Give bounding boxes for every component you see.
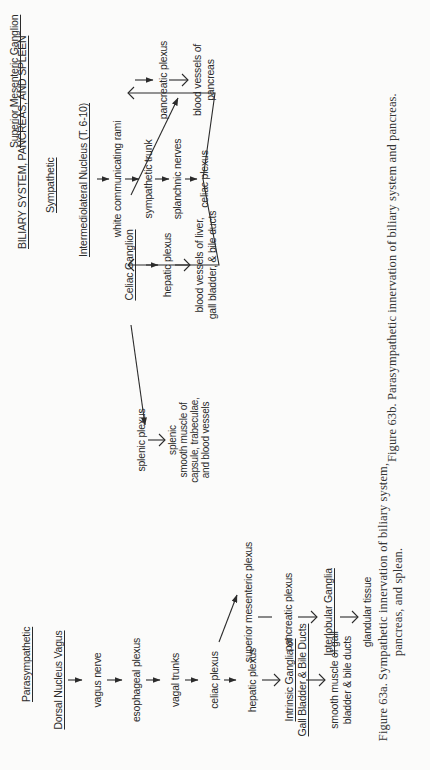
caption-figure-63a-line2: pancreas, and splean.	[391, 452, 406, 752]
node-celiac-plexus-para: celiac plexus	[208, 640, 220, 720]
node-glandular-tissue: glandular tissue	[361, 562, 373, 662]
node-vagus-nerve: vagus nerve	[91, 640, 103, 720]
node-pancreas-vessels-line1: blood vessels of	[191, 30, 203, 130]
node-superior-mesenteric-ganglion: Superior Mesenteric Ganglion	[8, 15, 20, 148]
heading-sympathetic: Sympathetic	[44, 157, 56, 213]
node-splenic-plexus: splenic plexus	[135, 395, 147, 485]
node-pancreatic-plexus-symp: pancreatic plexus	[157, 30, 169, 130]
node-celiac-ganglion: Celiac Ganglion	[123, 215, 135, 315]
node-intrinsic-ganglia-line2: Gall Bladder & Bile Ducts	[296, 620, 308, 740]
node-interlobular-ganglia: Interlobular Ganglia	[322, 552, 334, 672]
rotated-book-page: Parasympathetic Dorsal Nucleus Vagus vag…	[0, 0, 430, 770]
node-sympathetic-trunk: sympathetic trunk	[142, 119, 154, 239]
node-liver-vessels-line2: gall bladder, & bile ducts	[206, 200, 218, 330]
node-dorsal-nucleus-vagus: Dorsal Nucleus Vagus	[52, 630, 64, 730]
node-superior-mesenteric-plexus: superior mesenteric plexus	[242, 522, 254, 682]
node-esophageal-plexus: esophageal plexus	[130, 630, 142, 730]
node-pancreatic-plexus-para: pancreatic plexus	[282, 562, 294, 662]
node-liver-vessels-line1: blood vessels of liver,	[193, 200, 205, 330]
node-pancreas-vessels-line2: pancreas	[204, 30, 216, 130]
node-hepatic-plexus-symp: hepatic plexus	[161, 215, 173, 315]
node-smooth-muscle-line2: bladder & bile ducts	[341, 620, 353, 740]
node-vagal-trunks: vagal trunks	[169, 640, 181, 720]
node-white-communicating-rami: white communicating rami	[111, 109, 123, 249]
node-splenic-target-line4: and blood vessels	[200, 385, 212, 495]
caption-figure-63b: Figure 63b. Parasympathetic innervation …	[385, 93, 400, 462]
node-intermediolateral-nucleus: Intermediolateral Nucleus (T. 6-10)	[77, 90, 89, 270]
heading-parasympathetic: Parasympathetic	[20, 627, 32, 702]
caption-figure-63a-line1: Figure 63a. Sympathetic innervation of b…	[376, 452, 391, 752]
